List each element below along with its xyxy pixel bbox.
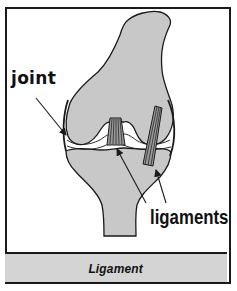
figure-caption: Ligament [89, 261, 144, 276]
joint-arrow [36, 98, 66, 135]
label-joint: joint [11, 68, 56, 88]
knee-joint-illustration [0, 0, 237, 291]
label-ligaments: ligaments [150, 205, 228, 229]
caption-band: Ligament [5, 252, 227, 282]
